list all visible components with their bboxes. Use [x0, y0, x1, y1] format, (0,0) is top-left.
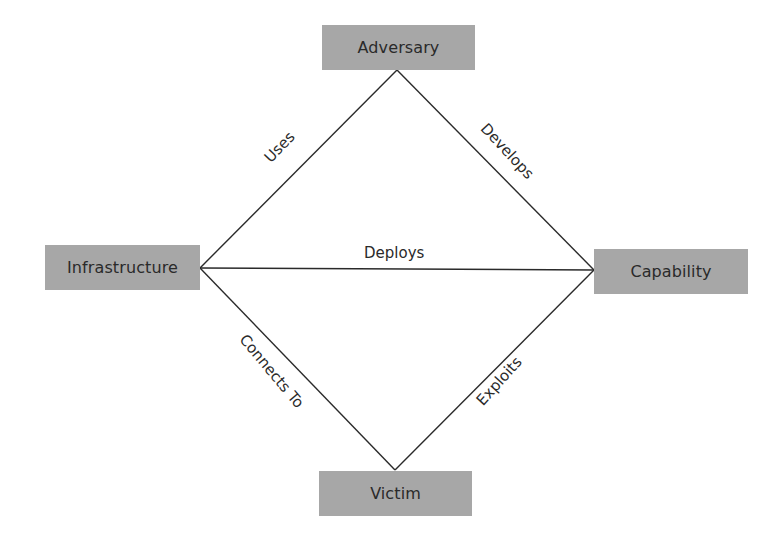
node-adversary-label: Adversary — [358, 38, 440, 57]
node-capability-label: Capability — [630, 262, 711, 281]
node-capability: Capability — [594, 249, 748, 294]
node-infrastructure: Infrastructure — [45, 245, 200, 290]
node-adversary: Adversary — [322, 25, 475, 70]
node-victim-label: Victim — [370, 484, 421, 503]
edge-deploys-line — [200, 268, 594, 270]
node-infrastructure-label: Infrastructure — [67, 258, 178, 277]
edge-exploits-line — [395, 270, 594, 470]
diamond-model-diagram: Adversary Infrastructure Capability Vict… — [0, 0, 783, 539]
edge-label-deploys: Deploys — [364, 246, 424, 261]
edge-develops-line — [397, 70, 594, 270]
edge-uses-line — [200, 70, 397, 268]
node-victim: Victim — [319, 471, 472, 516]
edge-connects-to-line — [200, 268, 395, 470]
